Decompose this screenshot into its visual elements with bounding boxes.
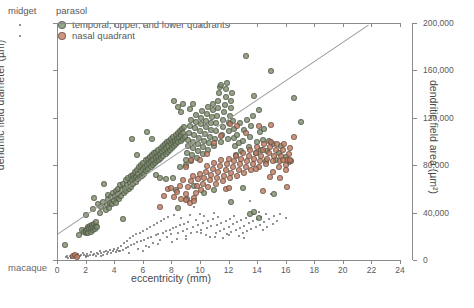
x-tick-top (286, 23, 287, 27)
x-tick-top (314, 23, 315, 27)
x-tick-top (171, 23, 172, 27)
scatter-point (105, 250, 107, 252)
scatter-point (266, 226, 268, 228)
scatter-point (214, 113, 220, 119)
y-tick-right (413, 118, 417, 119)
scatter-point (176, 238, 178, 240)
scatter-point (227, 175, 233, 181)
x-tick (57, 260, 58, 264)
scatter-point (242, 232, 244, 234)
scatter-point (95, 255, 97, 257)
scatter-point (200, 232, 202, 234)
scatter-point (195, 219, 197, 221)
scatter-point (204, 151, 210, 157)
scatter-point (187, 106, 193, 112)
scatter-point (235, 229, 237, 231)
x-tick-label: 0 (55, 265, 60, 275)
scatter-point (265, 213, 267, 215)
scatter-point (109, 249, 111, 251)
scatter-point (169, 229, 171, 231)
y-tick-right (413, 260, 417, 261)
x-tick (343, 260, 344, 264)
scatter-point (155, 234, 157, 236)
scatter-point (283, 167, 289, 173)
scatter-point (62, 242, 68, 248)
scatter-point (183, 191, 189, 197)
scatter-point (226, 185, 232, 191)
scatter-point (228, 105, 234, 111)
scatter-point (284, 184, 290, 190)
scatter-point (167, 216, 169, 218)
scatter-point (217, 216, 219, 218)
scatter-point (243, 130, 249, 136)
y-axis-label-right: dendritic field area (µm²) (428, 80, 440, 194)
scatter-point (177, 232, 179, 234)
scatter-point (238, 235, 240, 237)
scatter-point (276, 164, 282, 170)
scatter-point (175, 205, 181, 211)
scatter-point (234, 173, 240, 179)
scatter-point (268, 218, 270, 220)
scatter-point (262, 229, 264, 231)
y-tick-label-right: 160,000 (423, 65, 454, 75)
y-tick-label-right: 80,000 (423, 160, 449, 170)
figure-container: midget parasol temporal, upper, and lowe… (0, 0, 474, 308)
scatter-point (127, 246, 129, 248)
scatter-point (133, 243, 135, 245)
x-tick-top (114, 23, 115, 27)
scatter-point (234, 132, 240, 138)
scatter-point (214, 236, 216, 238)
y-tick-label-right: 40,000 (423, 208, 449, 218)
x-tick-label: 18 (310, 265, 319, 275)
scatter-point (135, 233, 137, 235)
x-tick-top (257, 23, 258, 27)
x-tick-label: 24 (395, 265, 404, 275)
y-tick-label-right: 120,000 (423, 113, 454, 123)
x-tick (143, 260, 144, 264)
scatter-point (220, 222, 222, 224)
scatter-point (213, 212, 215, 214)
scatter-point (139, 232, 141, 234)
x-tick (114, 260, 115, 264)
x-tick (86, 260, 87, 264)
scatter-point (215, 232, 217, 234)
scatter-point (273, 215, 275, 217)
scatter-point (260, 188, 266, 194)
scatter-point (148, 246, 150, 248)
scatter-point (206, 227, 208, 229)
y-axis-right-line (412, 23, 413, 260)
x-tick-top (200, 23, 201, 27)
scatter-point (117, 247, 119, 249)
x-tick-label: 16 (281, 265, 290, 275)
x-tick (314, 260, 315, 264)
species-label: macaque (8, 262, 47, 273)
scatter-point (118, 250, 120, 252)
scatter-point (197, 224, 199, 226)
scatter-point (85, 256, 87, 258)
scatter-point (287, 145, 293, 151)
scatter-point (209, 236, 211, 238)
x-tick-top (343, 23, 344, 27)
scatter-point (213, 181, 219, 187)
scatter-point (228, 234, 230, 236)
scatter-point (163, 176, 169, 182)
scatter-point (170, 175, 176, 181)
scatter-point (203, 215, 205, 217)
scatter-point (100, 255, 102, 257)
scatter-point (156, 222, 158, 224)
scatter-point (232, 223, 234, 225)
scatter-point (189, 214, 191, 216)
scatter-point (137, 248, 139, 250)
scatter-point (239, 227, 241, 229)
scatter-point (94, 224, 100, 230)
scatter-point (101, 181, 107, 187)
scatter-point (143, 239, 145, 241)
x-tick-label: 4 (112, 265, 117, 275)
scatter-point (267, 174, 273, 180)
scatter-point (260, 147, 266, 153)
scatter-point (236, 221, 238, 223)
scatter-point (180, 177, 186, 183)
scatter-point (185, 235, 187, 237)
scatter-point (191, 198, 197, 204)
scatter-point (248, 123, 254, 129)
